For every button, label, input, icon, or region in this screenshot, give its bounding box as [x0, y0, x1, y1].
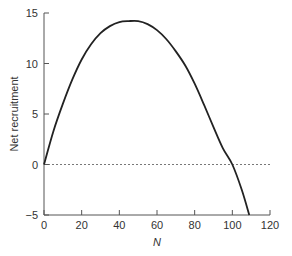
chart: −5051015020406080100120NNet recruitment [0, 0, 292, 256]
x-tick-label: 120 [261, 219, 279, 231]
x-tick-label: 100 [223, 219, 241, 231]
x-tick-label: 40 [113, 219, 125, 231]
y-tick-label: 15 [26, 7, 38, 19]
x-tick-label: 60 [151, 219, 163, 231]
x-tick-label: 0 [41, 219, 47, 231]
x-tick-label: 20 [76, 219, 88, 231]
x-axis-label: N [153, 236, 161, 248]
recruitment-curve [44, 21, 249, 215]
y-tick-label: 0 [32, 159, 38, 171]
y-tick-label: 10 [26, 58, 38, 70]
x-tick-label: 80 [189, 219, 201, 231]
plot-area: −5051015020406080100120NNet recruitment [8, 7, 279, 248]
y-tick-label: −5 [25, 209, 38, 221]
y-axis-label: Net recruitment [8, 76, 20, 151]
y-tick-label: 5 [32, 108, 38, 120]
